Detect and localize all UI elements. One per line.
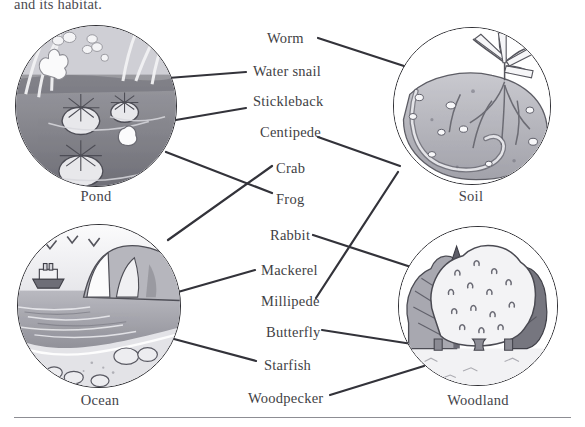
animal-label-worm[interactable]: Worm — [267, 30, 304, 47]
habitat-image-soil — [393, 27, 551, 185]
animal-label-millipede[interactable]: Millipede — [261, 293, 320, 310]
habitat-pond[interactable] — [15, 25, 177, 187]
connector-mackerel-to-ocean[interactable] — [178, 270, 255, 292]
instruction-text: and its habitat. — [14, 0, 102, 13]
animal-label-water-snail[interactable]: Water snail — [253, 63, 321, 80]
connector-frog-to-pond[interactable] — [166, 152, 272, 193]
animal-label-crab[interactable]: Crab — [276, 160, 305, 177]
connector-stickleback-to-pond[interactable] — [170, 108, 246, 121]
animal-label-stickleback[interactable]: Stickleback — [253, 93, 323, 110]
connector-centipede-to-soil[interactable] — [318, 137, 400, 166]
habitat-image-woodland — [398, 226, 558, 386]
animal-label-mackerel[interactable]: Mackerel — [261, 262, 318, 279]
habitat-soil[interactable] — [393, 27, 551, 185]
connector-worm-to-soil[interactable] — [318, 38, 404, 66]
habitat-woodland[interactable] — [398, 226, 558, 386]
connector-crab-to-ocean[interactable] — [168, 166, 272, 240]
habitat-label-soil: Soil — [392, 188, 550, 205]
habitat-label-woodland: Woodland — [398, 392, 558, 409]
habitat-image-pond — [15, 25, 177, 187]
animal-label-frog[interactable]: Frog — [276, 191, 304, 208]
connector-water-snail-to-pond[interactable] — [168, 72, 246, 78]
footer-rule — [14, 417, 571, 418]
animal-label-butterfly[interactable]: Butterfly — [266, 324, 321, 341]
habitat-label-pond: Pond — [15, 188, 177, 205]
connector-millipede-to-soil[interactable] — [316, 172, 398, 298]
habitat-ocean[interactable] — [17, 224, 181, 388]
habitat-label-ocean: Ocean — [18, 392, 182, 409]
connector-starfish-to-ocean[interactable] — [174, 339, 256, 361]
habitat-image-ocean — [17, 224, 181, 388]
animal-label-starfish[interactable]: Starfish — [264, 357, 311, 374]
animal-label-centipede[interactable]: Centipede — [260, 124, 321, 141]
animal-label-woodpecker[interactable]: Woodpecker — [248, 390, 323, 407]
worksheet-page: and its habitat. — [0, 0, 585, 427]
animal-label-rabbit[interactable]: Rabbit — [270, 227, 310, 244]
